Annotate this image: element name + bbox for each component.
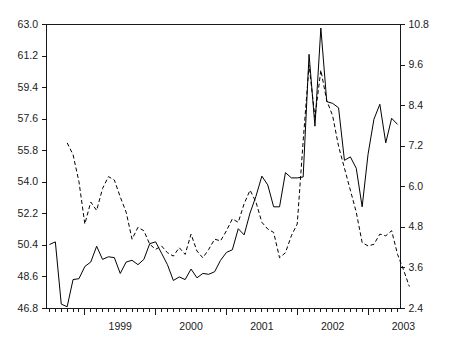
- y-axis-left-tick-label: 59.4: [0, 82, 38, 93]
- y-axis-left-tick-label: 52.2: [0, 208, 38, 219]
- chart-plot-area: [0, 0, 452, 347]
- x-axis-year-label: 2000: [169, 321, 213, 332]
- y-axis-left-ticks: [42, 25, 47, 309]
- y-axis-left-tick-label: 50.4: [0, 239, 38, 250]
- y-axis-right-tick-label: 6.0: [409, 181, 452, 192]
- y-axis-left-tick-label: 55.8: [0, 145, 38, 156]
- y-axis-right-ticks: [401, 25, 406, 309]
- y-axis-right-tick-label: 9.6: [409, 59, 452, 70]
- x-axis-ticks: [49, 309, 397, 316]
- y-axis-left-tick-label: 61.2: [0, 50, 38, 61]
- y-axis-left-tick-label: 46.8: [0, 303, 38, 314]
- x-axis-year-label: 2001: [240, 321, 284, 332]
- x-axis-year-label: 1999: [98, 321, 142, 332]
- y-axis-right-tick-label: 2.4: [409, 303, 452, 314]
- y-axis-right-tick-label: 4.8: [409, 221, 452, 232]
- axis-frame: [47, 25, 401, 309]
- dual-axis-line-chart: 63.061.259.457.655.854.052.250.448.646.8…: [0, 0, 452, 347]
- y-axis-right-tick-label: 8.4: [409, 100, 452, 111]
- y-axis-right-tick-label: 10.8: [409, 19, 452, 30]
- x-axis-year-label: 2002: [311, 321, 355, 332]
- y-axis-right-tick-label: 3.6: [409, 262, 452, 273]
- y-axis-left-tick-label: 63.0: [0, 19, 38, 30]
- y-axis-left-tick-label: 57.6: [0, 113, 38, 124]
- y-axis-left-tick-label: 48.6: [0, 271, 38, 282]
- dashed-series: [67, 65, 409, 286]
- x-axis-year-label: 2003: [381, 321, 425, 332]
- y-axis-right-tick-label: 7.2: [409, 140, 452, 151]
- y-axis-left-tick-label: 54.0: [0, 176, 38, 187]
- solid-series: [49, 28, 397, 307]
